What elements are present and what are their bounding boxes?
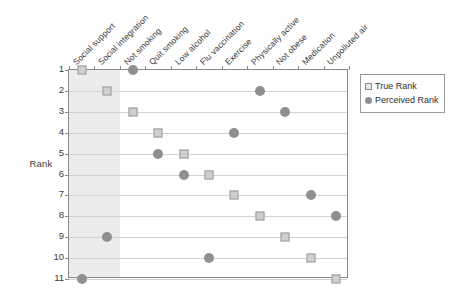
data-point-true-rank bbox=[205, 170, 214, 179]
y-tick-label: 1 bbox=[46, 64, 64, 74]
chart-scatter-rank: Rank 1234567891011 Social supportSocial … bbox=[0, 0, 458, 300]
x-axis-category-labels: Social supportSocial integrationNot smok… bbox=[68, 0, 348, 69]
gridline bbox=[69, 154, 347, 155]
circle-marker-icon bbox=[365, 97, 372, 104]
data-point-perceived-rank bbox=[153, 149, 163, 159]
data-point-true-rank bbox=[230, 191, 239, 200]
y-tick-mark bbox=[65, 154, 69, 155]
y-tick-mark bbox=[65, 91, 69, 92]
x-tick-mark bbox=[120, 66, 121, 70]
y-tick-mark bbox=[65, 279, 69, 280]
x-tick-mark bbox=[94, 66, 95, 70]
data-point-perceived-rank bbox=[179, 170, 189, 180]
y-tick-mark bbox=[65, 175, 69, 176]
x-tick-mark bbox=[273, 66, 274, 70]
data-point-true-rank bbox=[154, 128, 163, 137]
data-point-true-rank bbox=[128, 107, 137, 116]
chart-legend: True Rank Perceived Rank bbox=[360, 74, 445, 113]
data-point-perceived-rank bbox=[204, 253, 214, 263]
y-tick-label: 9 bbox=[46, 231, 64, 241]
data-point-true-rank bbox=[179, 149, 188, 158]
y-tick-label: 3 bbox=[46, 106, 64, 116]
data-point-perceived-rank bbox=[229, 128, 239, 138]
y-tick-mark bbox=[65, 112, 69, 113]
x-tick-mark bbox=[324, 66, 325, 70]
y-tick-label: 10 bbox=[46, 252, 64, 262]
plot-area bbox=[68, 69, 348, 278]
square-marker-icon bbox=[365, 83, 372, 90]
y-tick-label: 11 bbox=[46, 273, 64, 283]
legend-label-true-rank: True Rank bbox=[375, 82, 417, 91]
x-tick-mark bbox=[196, 66, 197, 70]
x-tick-mark bbox=[171, 66, 172, 70]
data-point-true-rank bbox=[281, 233, 290, 242]
data-point-perceived-rank bbox=[77, 274, 87, 284]
x-tick-mark bbox=[145, 66, 146, 70]
x-tick-mark bbox=[69, 66, 70, 70]
data-point-perceived-rank bbox=[280, 107, 290, 117]
y-tick-label: 7 bbox=[46, 190, 64, 200]
data-point-true-rank bbox=[255, 212, 264, 221]
y-tick-mark bbox=[65, 237, 69, 238]
highlight-band bbox=[69, 70, 120, 277]
y-tick-mark bbox=[65, 133, 69, 134]
legend-label-perceived-rank: Perceived Rank bbox=[375, 96, 439, 105]
x-tick-mark bbox=[349, 66, 350, 70]
data-point-perceived-rank bbox=[255, 86, 265, 96]
y-axis-tick-labels: 1234567891011 bbox=[46, 62, 64, 278]
legend-item-true-rank: True Rank bbox=[365, 80, 439, 93]
y-tick-mark bbox=[65, 195, 69, 196]
data-point-true-rank bbox=[103, 86, 112, 95]
x-tick-mark bbox=[247, 66, 248, 70]
y-tick-mark bbox=[65, 258, 69, 259]
data-point-true-rank bbox=[77, 66, 86, 75]
data-point-perceived-rank bbox=[331, 211, 341, 221]
y-tick-label: 2 bbox=[46, 85, 64, 95]
x-category-label: Unpolluted air bbox=[325, 22, 370, 67]
data-point-perceived-rank bbox=[128, 65, 138, 75]
gridline bbox=[69, 133, 347, 134]
y-tick-mark bbox=[65, 216, 69, 217]
y-tick-label: 8 bbox=[46, 211, 64, 221]
y-tick-label: 6 bbox=[46, 169, 64, 179]
x-tick-mark bbox=[222, 66, 223, 70]
y-tick-label: 4 bbox=[46, 127, 64, 137]
y-tick-mark bbox=[65, 70, 69, 71]
data-point-perceived-rank bbox=[102, 232, 112, 242]
gridline bbox=[69, 216, 347, 217]
gridline bbox=[69, 279, 347, 280]
data-point-true-rank bbox=[306, 254, 315, 263]
y-tick-label: 5 bbox=[46, 148, 64, 158]
legend-item-perceived-rank: Perceived Rank bbox=[365, 94, 439, 107]
data-point-true-rank bbox=[332, 275, 341, 284]
data-point-perceived-rank bbox=[306, 190, 316, 200]
x-tick-mark bbox=[298, 66, 299, 70]
gridline bbox=[69, 112, 347, 113]
